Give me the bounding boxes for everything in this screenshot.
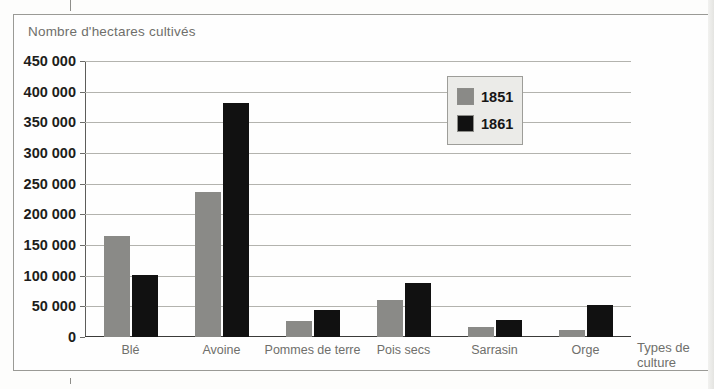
bar-1851-5 — [559, 330, 585, 337]
y-tick-label: 50 000 — [32, 298, 76, 314]
page-edge — [708, 0, 714, 389]
x-tick-label: Sarrasin — [471, 343, 518, 357]
y-tick-mark — [80, 337, 85, 338]
bar-1861-3 — [405, 283, 431, 337]
plot-area: 050 000100 000150 000200 000250 000300 0… — [85, 61, 631, 337]
legend-label-1861: 1861 — [481, 116, 513, 132]
y-tick-label: 100 000 — [24, 268, 76, 284]
x-tick-label: Orge — [572, 343, 600, 357]
legend-box: 1851 1861 — [447, 76, 523, 145]
legend-item-1861: 1861 — [457, 115, 513, 132]
legend-item-1851: 1851 — [457, 88, 513, 105]
y-tick-label: 150 000 — [24, 237, 76, 253]
bar-1861-2 — [314, 310, 340, 337]
x-tick-label: Pommes de terre — [265, 343, 361, 357]
bar-1851-3 — [377, 300, 403, 337]
x-tick-label: Blé — [121, 343, 139, 357]
y-tick-label: 450 000 — [24, 53, 76, 69]
y-tick-label: 0 — [68, 329, 76, 345]
y-tick-label: 250 000 — [24, 176, 76, 192]
chart-title: Nombre d'hectares cultivés — [28, 24, 196, 39]
bar-1851-2 — [286, 321, 312, 337]
bar-1861-5 — [587, 305, 613, 337]
bar-1861-1 — [223, 103, 249, 337]
x-axis-title: Types de culture — [637, 341, 690, 370]
bar-1861-4 — [496, 320, 522, 337]
x-axis-title-line-1: Types de — [637, 341, 690, 356]
legend-swatch-1851 — [457, 88, 474, 105]
legend-label-1851: 1851 — [481, 89, 513, 105]
crop-mark-bottom — [70, 378, 71, 384]
x-tick-label: Avoine — [203, 343, 241, 357]
y-tick-label: 200 000 — [24, 206, 76, 222]
bar-1861-0 — [132, 275, 158, 337]
figure-page: Nombre d'hectares cultivés 050 000100 00… — [0, 0, 714, 389]
legend-swatch-1861 — [457, 115, 474, 132]
crop-mark-top — [70, 0, 71, 11]
x-axis-title-line-2: culture — [637, 356, 690, 371]
bar-1851-1 — [195, 192, 221, 337]
bars-layer — [85, 61, 631, 337]
y-tick-label: 350 000 — [24, 114, 76, 130]
y-tick-label: 300 000 — [24, 145, 76, 161]
x-tick-label: Pois secs — [377, 343, 431, 357]
bar-1851-0 — [104, 236, 130, 337]
y-tick-label: 400 000 — [24, 84, 76, 100]
bar-1851-4 — [468, 327, 494, 337]
